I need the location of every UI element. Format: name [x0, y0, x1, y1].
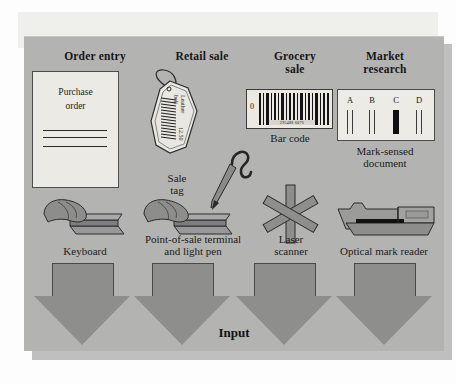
document-rule — [43, 137, 107, 138]
diagram-panel: Order entry Retail sale Grocery sale Mar… — [24, 36, 444, 351]
column-title-market-research-line2: research — [330, 63, 440, 76]
arrow-shaft — [254, 263, 316, 298]
mark-option-a: A — [342, 95, 358, 105]
optical-mark-reader-caption: Optical mark reader — [324, 245, 444, 258]
keyboard-illustration — [40, 192, 126, 238]
mark-rule — [421, 110, 422, 134]
arrow-shaft — [354, 263, 416, 298]
mark-option-c: C — [388, 95, 404, 105]
mark-rule — [347, 110, 348, 134]
pos-caption-line1: Point-of-sale terminal — [128, 233, 258, 246]
input-label: Input — [24, 325, 444, 341]
sale-tag-item-label: Leather — [180, 95, 186, 113]
mark-filled-c — [393, 110, 399, 134]
pos-caption-line2: and light pen — [128, 245, 258, 258]
arrow-shaft — [152, 263, 214, 298]
input-devices-figure: Order entry Retail sale Grocery sale Mar… — [0, 0, 456, 384]
mark-sensed-document: A B C D — [337, 89, 435, 141]
laser-scanner-caption-line2: scanner — [246, 245, 336, 258]
sale-tag-item-label2: belt — [173, 95, 179, 104]
bar-code-lead-digit: 0 — [250, 102, 254, 111]
mark-rule — [352, 110, 353, 134]
mark-sensed-caption-line1: Mark-sensed — [330, 145, 440, 158]
mark-option-b: B — [364, 95, 380, 105]
arrow-shaft — [52, 263, 114, 298]
mark-sensed-caption-line2: document — [330, 157, 440, 170]
purchase-order-line1: Purchase — [33, 86, 118, 98]
keyboard-caption: Keyboard — [30, 245, 140, 258]
optical-mark-reader-illustration — [336, 189, 440, 239]
column-title-market-research-line1: Market — [330, 50, 440, 63]
purchase-order-line2: order — [33, 100, 118, 112]
document-rule — [43, 146, 107, 147]
pos-terminal-illustration — [140, 192, 236, 238]
column-title-order-entry: Order entry — [30, 50, 160, 63]
mark-rule — [374, 110, 375, 134]
sale-tag-price: 12.50 — [178, 127, 184, 141]
bar-code-number: 295488 6076 — [269, 120, 315, 125]
mark-rule — [369, 110, 370, 134]
laser-scanner-caption-line1: Laser — [246, 233, 336, 246]
mark-option-d: D — [411, 95, 427, 105]
bar-code-caption: Bar code — [240, 132, 340, 145]
purchase-order-document: Purchase order — [32, 71, 119, 188]
mark-rule — [416, 110, 417, 134]
bar-code: 0 295488 6076 — [246, 89, 333, 129]
document-rule — [43, 130, 107, 131]
